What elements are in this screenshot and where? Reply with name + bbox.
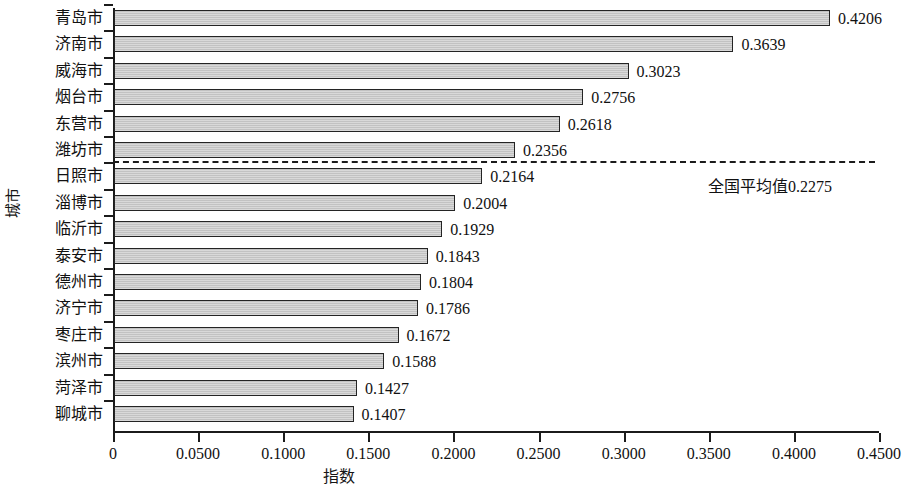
y-axis-tick <box>104 294 113 296</box>
bar-value-label: 0.2618 <box>568 117 612 133</box>
bar <box>114 300 418 316</box>
bar-value-label: 0.1407 <box>362 407 406 423</box>
bar <box>114 221 442 237</box>
y-axis-tick <box>104 110 113 112</box>
y-axis-tick <box>104 374 113 376</box>
bar <box>114 274 421 290</box>
bar-value-label: 0.2756 <box>591 90 635 106</box>
x-axis-tick <box>624 433 626 442</box>
category-label: 威海市 <box>3 63 103 79</box>
x-axis-tick-label: 0.4000 <box>754 445 834 463</box>
bar <box>114 116 560 132</box>
national-average-reference-line <box>113 161 875 163</box>
y-axis-tick <box>104 136 113 138</box>
category-label: 济南市 <box>3 36 103 52</box>
bar <box>114 142 515 158</box>
bar <box>114 195 455 211</box>
bar <box>114 248 428 264</box>
x-axis-tick-label: 0.1500 <box>328 445 408 463</box>
y-axis-tick <box>104 30 113 32</box>
bar-value-label: 0.1804 <box>429 275 473 291</box>
x-axis-tick-label: 0.2500 <box>499 445 579 463</box>
x-axis-tick-label: 0.2000 <box>413 445 493 463</box>
category-label: 枣庄市 <box>3 327 103 343</box>
bar <box>114 63 629 79</box>
x-axis-tick <box>113 433 115 442</box>
category-label: 日照市 <box>3 168 103 184</box>
horizontal-bar-chart: 城市 青岛市济南市威海市烟台市东营市潍坊市日照市淄博市临沂市泰安市德州市济宁市枣… <box>0 0 902 485</box>
bar-value-label: 0.1588 <box>392 354 436 370</box>
y-axis-category-labels: 青岛市济南市威海市烟台市东营市潍坊市日照市淄博市临沂市泰安市德州市济宁市枣庄市滨… <box>0 8 107 432</box>
bar <box>114 327 399 343</box>
bar-value-label: 0.1786 <box>426 301 470 317</box>
x-axis-tick <box>794 433 796 442</box>
category-label: 菏泽市 <box>3 380 103 396</box>
bar-value-label: 0.1427 <box>365 381 409 397</box>
x-axis-tick-label: 0 <box>73 445 153 463</box>
bar-value-label: 0.1672 <box>407 328 451 344</box>
category-label: 德州市 <box>3 274 103 290</box>
category-label: 滨州市 <box>3 353 103 369</box>
y-axis-tick <box>104 57 113 59</box>
bar-value-label: 0.4206 <box>838 11 882 27</box>
x-axis-tick-label: 0.3500 <box>669 445 749 463</box>
category-label: 烟台市 <box>3 89 103 105</box>
category-label: 东营市 <box>3 116 103 132</box>
bar <box>114 10 830 26</box>
y-axis-tick <box>104 400 113 402</box>
plot-area: 0.42060.36390.30230.27560.26180.23560.21… <box>113 8 902 432</box>
bar <box>114 380 357 396</box>
category-label: 淄博市 <box>3 195 103 211</box>
x-axis-tick-label: 0.4500 <box>839 445 902 463</box>
category-label: 临沂市 <box>3 221 103 237</box>
bar <box>114 406 354 422</box>
category-label: 济宁市 <box>3 300 103 316</box>
x-axis-tick <box>283 433 285 442</box>
bar <box>114 168 482 184</box>
bar <box>114 353 384 369</box>
y-axis-tick <box>104 4 113 6</box>
x-axis-tick <box>879 433 881 442</box>
y-axis-tick <box>104 83 113 85</box>
x-axis-tick-label: 0.1000 <box>243 445 323 463</box>
x-axis-tick <box>368 433 370 442</box>
y-axis-tick <box>104 347 113 349</box>
x-axis-tick-label: 0.3000 <box>584 445 664 463</box>
x-axis-title-text: 指数 <box>323 468 355 485</box>
x-axis-line <box>113 431 879 433</box>
y-axis-tick <box>104 215 113 217</box>
y-axis-tick <box>104 268 113 270</box>
category-label: 聊城市 <box>3 406 103 422</box>
y-axis-tick <box>104 189 113 191</box>
x-axis-tick <box>198 433 200 442</box>
national-average-label: 全国平均值0.2275 <box>708 178 832 196</box>
category-label: 潍坊市 <box>3 142 103 158</box>
bar-value-label: 0.2356 <box>523 143 567 159</box>
x-axis-tick <box>539 433 541 442</box>
category-label: 泰安市 <box>3 248 103 264</box>
category-label: 青岛市 <box>3 10 103 26</box>
bar-value-label: 0.3023 <box>637 64 681 80</box>
bar-value-label: 0.1929 <box>450 222 494 238</box>
bar-value-label: 0.3639 <box>741 37 785 53</box>
bar-value-label: 0.1843 <box>436 249 480 265</box>
y-axis-tick <box>104 162 113 164</box>
y-axis-tick <box>104 321 113 323</box>
bar <box>114 36 733 52</box>
x-axis-tick <box>709 433 711 442</box>
x-axis-tick <box>453 433 455 442</box>
bar-value-label: 0.2164 <box>490 169 534 185</box>
bar-value-label: 0.2004 <box>463 196 507 212</box>
x-axis-title: 指数 <box>113 468 902 485</box>
y-axis-tick <box>104 242 113 244</box>
x-axis-tick-label: 0.0500 <box>158 445 238 463</box>
bar <box>114 89 583 105</box>
